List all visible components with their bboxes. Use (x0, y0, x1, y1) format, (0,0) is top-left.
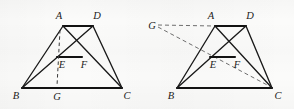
label-A: A (207, 10, 215, 21)
segment-DC (93, 26, 122, 88)
trapezoid-figure-left: A D B C E F G (0, 0, 147, 109)
left-figure-canvas: A D B C E F G (0, 0, 147, 109)
label-B: B (13, 90, 20, 101)
label-A: A (55, 10, 63, 21)
diagram-page: A D B C E F G (0, 0, 294, 109)
label-B: B (168, 90, 175, 101)
label-C: C (123, 90, 131, 101)
segment-DC (246, 26, 272, 88)
label-F: F (233, 59, 241, 70)
label-D: D (92, 10, 101, 21)
label-E: E (209, 59, 217, 70)
label-G: G (53, 91, 61, 102)
trapezoid-figure-right: A D B C E F G (147, 0, 294, 109)
label-E: E (58, 59, 66, 70)
segment-GA-dashed (158, 25, 214, 26)
right-figure-canvas: A D B C E F G (147, 0, 294, 109)
label-C: C (274, 90, 282, 101)
label-D: D (245, 10, 254, 21)
label-G: G (148, 20, 156, 31)
label-F: F (80, 59, 88, 70)
